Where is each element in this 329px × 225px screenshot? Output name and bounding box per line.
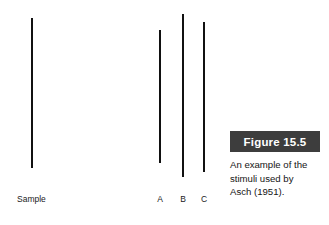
caption-block: Figure 15.5 An example of the stimuli us… bbox=[230, 131, 322, 199]
sample-line bbox=[31, 18, 33, 168]
comparison-label-b: B bbox=[180, 194, 186, 204]
figure-number-text: Figure 15.5 bbox=[244, 136, 307, 148]
comparison-line-a bbox=[159, 30, 161, 163]
comparison-label-a: A bbox=[157, 194, 163, 204]
comparison-label-c: C bbox=[201, 194, 207, 204]
comparison-line-c bbox=[203, 22, 205, 172]
caption-line-1: An example of the bbox=[230, 158, 325, 172]
sample-label: Sample bbox=[17, 194, 46, 204]
figure-number-box: Figure 15.5 bbox=[230, 131, 320, 152]
figure-container: Sample A B C Figure 15.5 An example of t… bbox=[0, 0, 329, 225]
figure-caption-text: An example of the stimuli used by Asch (… bbox=[230, 158, 325, 199]
caption-line-3: Asch (1951). bbox=[230, 185, 325, 199]
comparison-line-b bbox=[182, 14, 184, 177]
caption-line-2: stimuli used by bbox=[230, 172, 325, 186]
